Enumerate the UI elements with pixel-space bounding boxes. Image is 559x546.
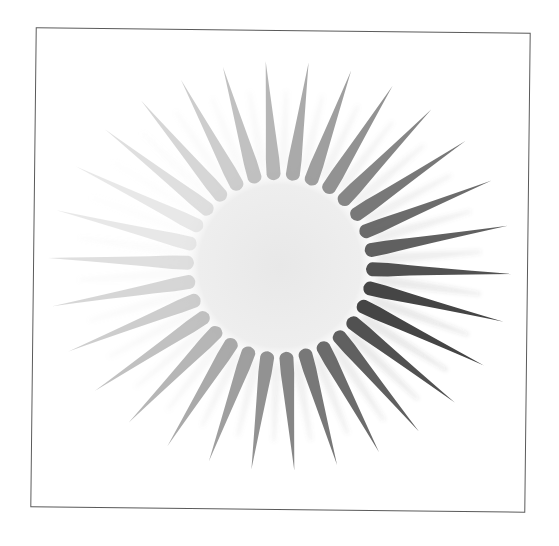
ray-halo: [277, 91, 289, 170]
ray-halo: [271, 362, 283, 441]
sun-ray: [279, 352, 294, 471]
sun-ray: [48, 256, 194, 270]
sunburst-graphic: [0, 0, 559, 546]
sun-ray: [366, 262, 512, 276]
sun-ray: [266, 61, 281, 180]
